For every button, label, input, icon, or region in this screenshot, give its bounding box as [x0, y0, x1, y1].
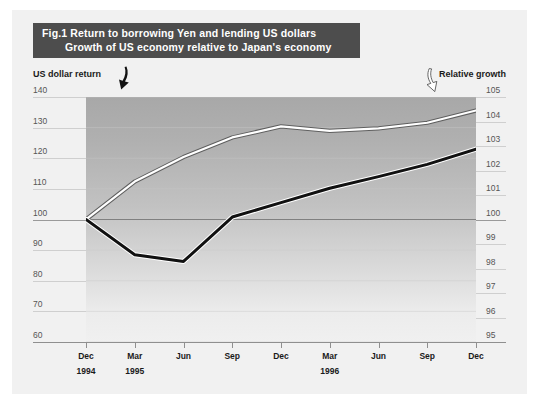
x-axis-month-label: Dec — [468, 351, 484, 361]
right-axis-tick-label: 95 — [486, 330, 495, 340]
figure-title-line2: Growth of US economy relative to Japan's… — [42, 41, 360, 55]
x-axis-tick — [184, 343, 185, 348]
x-axis-year-label: 1994 — [77, 366, 96, 376]
left-axis-tick-label: 70 — [33, 299, 42, 309]
left-axis-caption: US dollar return — [33, 69, 101, 79]
series-us-dollar-return — [86, 149, 476, 261]
right-axis-rule — [476, 293, 506, 294]
right-axis-rule — [476, 195, 506, 196]
right-axis-tick-label: 96 — [486, 306, 495, 316]
right-axis-rule — [476, 220, 506, 221]
right-axis-rule — [476, 122, 506, 123]
left-axis-rule — [33, 128, 86, 129]
x-axis-month-label: Mar — [127, 351, 142, 361]
right-axis-rule — [476, 269, 506, 270]
series-layer — [86, 97, 476, 342]
right-axis-tick-label: 99 — [486, 232, 495, 242]
left-axis-rule — [33, 220, 86, 221]
plot-area — [86, 97, 476, 342]
figure-title-banner: Fig.1 Return to borrowing Yen and lendin… — [33, 23, 360, 58]
left-axis-rule — [33, 158, 86, 159]
right-axis-rule — [476, 97, 506, 98]
x-axis-tick — [427, 343, 428, 348]
arrow-white-down-right-icon — [424, 67, 442, 97]
right-axis-tick-label: 97 — [486, 281, 495, 291]
left-axis-rule — [33, 281, 86, 282]
x-axis-tick — [330, 343, 331, 348]
x-axis-month-label: Mar — [322, 351, 337, 361]
right-axis-tick-label: 103 — [486, 134, 500, 144]
gridlines — [86, 97, 476, 342]
left-axis-rule — [33, 342, 86, 343]
right-axis-tick-label: 101 — [486, 183, 500, 193]
x-axis-month-label: Sep — [224, 351, 240, 361]
left-axis-tick-label: 90 — [33, 238, 42, 248]
left-axis-rule — [33, 250, 86, 251]
figure-title-line1: Fig.1 Return to borrowing Yen and lendin… — [42, 27, 360, 41]
left-axis-tick-label: 140 — [33, 85, 47, 95]
x-axis-tick — [476, 343, 477, 348]
x-axis-month-label: Jun — [371, 351, 386, 361]
left-axis-rule — [33, 97, 86, 98]
left-axis-tick-label: 100 — [33, 208, 47, 218]
x-axis-year-label: 1996 — [320, 366, 339, 376]
x-axis-month-label: Dec — [273, 351, 289, 361]
x-axis-year-label: 1995 — [125, 366, 144, 376]
left-axis-rule — [33, 311, 86, 312]
right-axis-tick-label: 105 — [486, 85, 500, 95]
x-axis-tick — [232, 343, 233, 348]
right-axis-rule — [476, 342, 506, 343]
right-axis-caption: Relative growth — [439, 69, 506, 79]
x-axis-month-label: Dec — [78, 351, 94, 361]
chart-page: Fig.1 Return to borrowing Yen and lendin… — [0, 0, 539, 405]
x-axis-tick — [281, 343, 282, 348]
right-axis-tick-label: 102 — [486, 159, 500, 169]
right-axis-tick-label: 100 — [486, 208, 500, 218]
right-axis-rule — [476, 146, 506, 147]
x-axis-month-label: Jun — [176, 351, 191, 361]
x-axis-tick — [86, 343, 87, 348]
right-axis-tick-label: 98 — [486, 257, 495, 267]
left-axis-rule — [33, 189, 86, 190]
left-axis-tick-label: 130 — [33, 116, 47, 126]
right-axis-rule — [476, 171, 506, 172]
left-axis-tick-label: 80 — [33, 269, 42, 279]
x-axis-tick — [379, 343, 380, 348]
left-axis-tick-label: 120 — [33, 146, 47, 156]
left-axis-tick-label: 60 — [33, 330, 42, 340]
arrow-black-down-left-icon — [113, 65, 133, 95]
left-axis-tick-label: 110 — [33, 177, 47, 187]
x-axis-tick — [135, 343, 136, 348]
right-axis-tick-label: 104 — [486, 110, 500, 120]
right-axis-rule — [476, 318, 506, 319]
x-axis-month-label: Sep — [419, 351, 435, 361]
right-axis-rule — [476, 244, 506, 245]
